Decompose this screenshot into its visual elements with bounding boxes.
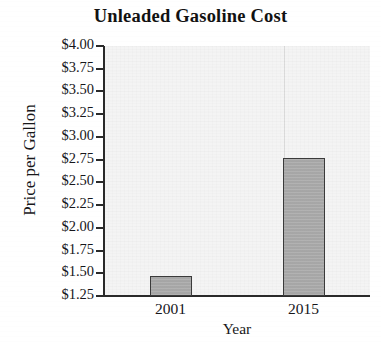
y-tick-label: $2.00 bbox=[24, 218, 94, 235]
y-tick-label: $2.25 bbox=[24, 195, 94, 212]
x-axis-line bbox=[103, 295, 370, 297]
y-tick-label: $4.00 bbox=[24, 36, 94, 53]
y-tick-mark bbox=[96, 113, 104, 115]
plot-area bbox=[104, 46, 370, 296]
y-tick-label: $3.50 bbox=[24, 81, 94, 98]
y-tick-label: $2.50 bbox=[24, 172, 94, 189]
y-tick-mark bbox=[96, 250, 104, 252]
y-tick-mark bbox=[96, 204, 104, 206]
y-tick-mark bbox=[96, 136, 104, 138]
y-tick-label: $1.25 bbox=[24, 286, 94, 303]
y-tick-label: $2.75 bbox=[24, 150, 94, 167]
y-tick-mark bbox=[96, 68, 104, 70]
bar bbox=[150, 276, 192, 296]
y-tick-label: $3.00 bbox=[24, 127, 94, 144]
y-tick-label: $3.75 bbox=[24, 59, 94, 76]
y-tick-label: $1.75 bbox=[24, 241, 94, 258]
y-tick-label: $1.50 bbox=[24, 263, 94, 280]
y-axis-line bbox=[103, 46, 105, 297]
chart-title: Unleaded Gasoline Cost bbox=[0, 6, 381, 27]
y-tick-label: $3.25 bbox=[24, 104, 94, 121]
y-tick-mark bbox=[96, 90, 104, 92]
bar bbox=[283, 158, 325, 296]
y-tick-mark bbox=[96, 159, 104, 161]
plot-texture bbox=[104, 46, 370, 296]
x-axis-title: Year bbox=[104, 320, 370, 338]
y-tick-mark bbox=[96, 45, 104, 47]
y-tick-mark bbox=[96, 295, 104, 297]
y-tick-mark bbox=[96, 227, 104, 229]
bar-chart-figure: Unleaded Gasoline Cost Price per Gallon … bbox=[0, 0, 381, 342]
x-tick-label: 2015 bbox=[259, 300, 349, 318]
x-tick-label: 2001 bbox=[126, 300, 216, 318]
y-tick-mark bbox=[96, 181, 104, 183]
y-tick-mark bbox=[96, 272, 104, 274]
